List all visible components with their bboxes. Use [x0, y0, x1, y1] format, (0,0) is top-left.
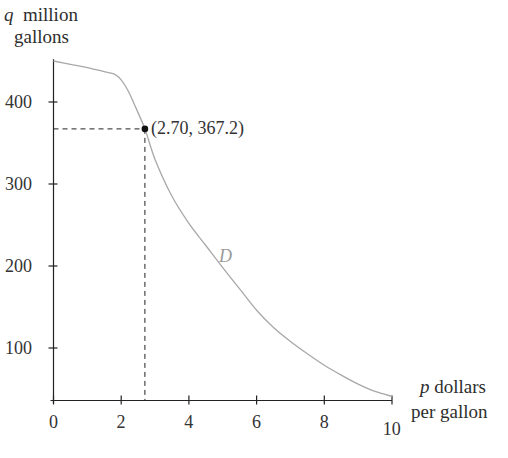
axes	[49, 59, 393, 404]
x-axis-label: p dollars	[420, 377, 486, 396]
point-annotation-label: (2.70, 367.2)	[151, 118, 244, 139]
x-axis-unit: per gallon	[411, 402, 488, 421]
x-tick-label: 6	[252, 413, 261, 431]
x-tick-label: 0	[49, 413, 58, 431]
y-axis-unit: gallons	[14, 27, 69, 46]
y-tick-label: 300	[5, 175, 32, 193]
annotated-point	[142, 126, 149, 133]
y-tick-label: 100	[5, 339, 32, 357]
y-tick-label: 200	[5, 257, 32, 275]
x-tick-label: 8	[320, 413, 329, 431]
x-tick-label: 4	[184, 413, 193, 431]
dashed-guides	[54, 129, 145, 401]
y-axis-label: q million	[4, 5, 78, 24]
demand-curve	[54, 61, 393, 396]
x-tick-label: 2	[117, 413, 126, 431]
x-tick-label: 10	[383, 420, 401, 438]
y-tick-label: 400	[5, 93, 32, 111]
series-label-d: D	[219, 246, 232, 267]
